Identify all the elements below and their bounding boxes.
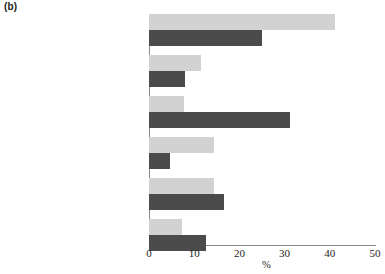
x-tick-label: 30 bbox=[265, 247, 305, 259]
plot-area bbox=[149, 14, 375, 246]
bar-light bbox=[149, 96, 184, 112]
x-tick-label: 10 bbox=[174, 247, 214, 259]
bar-dark bbox=[149, 194, 224, 210]
x-tick-label: 20 bbox=[219, 247, 259, 259]
bar-dark bbox=[149, 71, 185, 87]
panel-label: (b) bbox=[4, 1, 17, 12]
bar-light bbox=[149, 137, 214, 153]
bar-light bbox=[149, 178, 214, 194]
x-tick-label: 0 bbox=[129, 247, 169, 259]
bar-dark bbox=[149, 30, 262, 46]
bar-dark bbox=[149, 153, 170, 169]
x-axis-title: % bbox=[262, 259, 271, 270]
bar-light bbox=[149, 219, 182, 235]
bar-light bbox=[149, 14, 335, 30]
bar-light bbox=[149, 55, 201, 71]
x-tick-label: 50 bbox=[355, 247, 385, 259]
bar-dark bbox=[149, 112, 290, 128]
x-tick-label: 40 bbox=[310, 247, 350, 259]
